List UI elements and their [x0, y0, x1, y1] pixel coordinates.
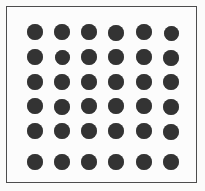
figure-canvas [0, 0, 205, 191]
grid-dot [27, 154, 43, 170]
grid-dot [54, 74, 70, 90]
grid-dot [81, 74, 97, 90]
grid-dot [27, 49, 43, 65]
grid-dot [136, 154, 152, 170]
grid-dot [108, 74, 124, 90]
grid-dot [136, 74, 152, 90]
grid-dot [108, 49, 124, 65]
dot-grid-plot-area [0, 0, 205, 191]
grid-dot [163, 50, 179, 66]
grid-dot [27, 74, 43, 90]
grid-dot [81, 123, 97, 139]
grid-dot [81, 24, 97, 40]
grid-dot [164, 26, 179, 41]
grid-dot [136, 24, 152, 40]
grid-dot [108, 98, 124, 114]
grid-dot [108, 123, 124, 139]
grid-dot [163, 74, 179, 90]
grid-dot [27, 123, 43, 139]
grid-dot [136, 123, 152, 139]
grid-dot [163, 99, 179, 115]
grid-dot [27, 24, 43, 40]
grid-dot [27, 98, 43, 114]
grid-dot [81, 154, 97, 170]
grid-dot [54, 24, 70, 40]
grid-dot [54, 154, 70, 170]
grid-dot [136, 98, 152, 114]
grid-dot [108, 25, 124, 41]
grid-dot [54, 123, 70, 139]
grid-dot [136, 49, 152, 65]
grid-dot [163, 154, 179, 170]
grid-dot [81, 49, 97, 65]
grid-dot [81, 98, 97, 114]
grid-dot [54, 99, 70, 115]
grid-dot [55, 50, 70, 65]
grid-dot [163, 124, 179, 140]
grid-dot [108, 154, 124, 170]
